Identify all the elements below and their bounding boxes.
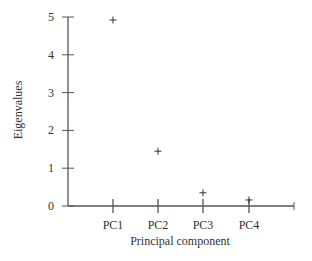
y-tick-label: 1 [48,161,54,175]
plus-marker [110,17,117,24]
y-tick-label: 3 [48,86,54,100]
plus-marker [200,189,207,196]
x-tick-label: PC4 [239,218,260,232]
scree-plot: 012345 PC1PC2PC3PC4 Eigenvalues Principa… [0,0,312,261]
y-tick-label: 5 [48,10,54,24]
y-axis-label: Eigenvalues [11,80,25,139]
x-tick-label: PC1 [103,218,124,232]
plus-marker [246,196,253,203]
x-tick-label: PC2 [148,218,169,232]
y-tick-label: 4 [48,48,54,62]
y-axis: 012345 [48,10,74,213]
plus-marker [155,148,162,155]
y-tick-label: 2 [48,123,54,137]
x-tick-label: PC3 [193,218,214,232]
data-points [110,17,253,204]
x-axis: PC1PC2PC3PC4 [68,199,294,232]
y-tick-label: 0 [48,199,54,213]
x-axis-label: Principal component [130,234,230,248]
